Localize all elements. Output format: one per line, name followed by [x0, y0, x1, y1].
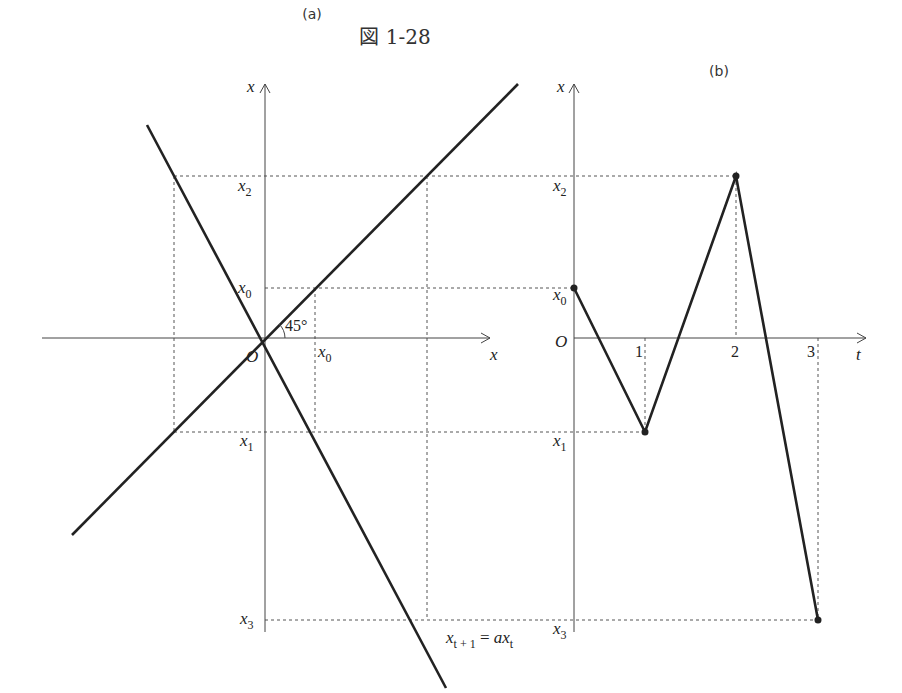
time-axis-label-b: t	[856, 345, 862, 364]
panel-b-label: (b)	[709, 63, 729, 79]
point-t2	[733, 173, 740, 180]
level-label-x1-a: x1	[239, 431, 254, 454]
line-45-degree	[72, 84, 518, 535]
level-label-x2-b: x2	[552, 176, 567, 199]
level-label-x2-a: x2	[237, 176, 252, 199]
level-label-x1-b: x1	[552, 431, 567, 454]
panel-a: 45° x x O x2 x0 x1 x3 x0 xt + 1 = axt	[42, 77, 540, 688]
tick-2: 2	[731, 343, 739, 360]
panel-a-label: (a)	[302, 6, 322, 22]
figure-caption: 図 1-28	[359, 25, 430, 49]
level-label-x3-a: x3	[239, 609, 254, 632]
origin-label-a: O	[246, 347, 258, 366]
vertical-axis-label-b: x	[556, 77, 565, 96]
angle-label: 45°	[285, 317, 307, 334]
point-t1	[642, 429, 649, 436]
point-t0	[571, 285, 578, 292]
origin-label-b: O	[555, 332, 567, 351]
level-label-x3-b: x3	[552, 619, 567, 642]
panel-b: x t O 1 2 3 x2 x0 x1 x3	[540, 77, 866, 642]
vertical-axis-label-a: x	[246, 77, 255, 96]
line-x-t-plus-1-equals-a-x-t	[147, 125, 446, 688]
tick-3: 3	[807, 343, 815, 360]
figure-canvas: 図 1-28 (a) (b) 45° x x O x2 x0 x1 x3 x0 …	[0, 0, 902, 693]
horizontal-tick-x0-a: x0	[317, 342, 332, 365]
tick-1: 1	[635, 343, 643, 360]
point-t3	[815, 617, 822, 624]
horizontal-axis-label-a: x	[489, 345, 498, 364]
equation-label: xt + 1 = axt	[445, 628, 514, 651]
time-path-line	[574, 176, 818, 620]
